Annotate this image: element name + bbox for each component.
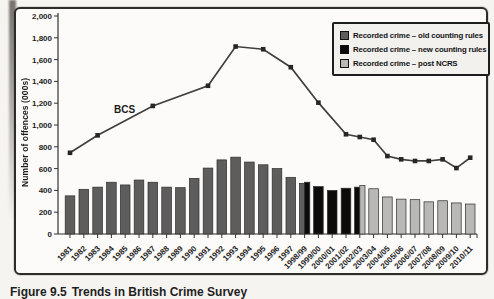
bcs-point-1987 [151, 104, 156, 109]
bar-1991-old [203, 168, 213, 234]
bar-1995-old [258, 165, 268, 234]
bar-1993-old [231, 157, 241, 234]
bar-1986-old [134, 180, 144, 234]
bar-1999/00-new [314, 187, 324, 234]
bcs-point-2005/06 [399, 157, 404, 162]
y-tick-label-2,000: 2,000 [32, 12, 53, 21]
y-tick-label-1,800: 1,800 [32, 34, 53, 43]
y-tick-label-0: 0 [48, 230, 53, 239]
bar-2009/10-post [452, 203, 462, 234]
legend-swatch-new-icon [340, 45, 349, 54]
bar-2006/07-post [410, 200, 420, 234]
legend-label-old: Recorded crime – old counting rules [353, 31, 483, 40]
y-axis-title: Number of offences (000s) [20, 37, 30, 227]
bcs-point-1995 [261, 47, 266, 52]
legend-item-old: Recorded crime – old counting rules [340, 28, 483, 42]
bcs-point-1991 [206, 83, 211, 88]
legend-item-post: Recorded crime – post NCRS [340, 56, 483, 70]
bcs-point-2003/04 [371, 137, 376, 142]
figure-caption: Figure 9.5Trends in British Crime Survey [10, 285, 490, 299]
y-tick-label-1,200: 1,200 [32, 99, 53, 108]
y-tick-label-400: 400 [39, 186, 53, 195]
bar-1985-old [120, 185, 130, 234]
bar-1996-old [272, 169, 282, 234]
bar-1998/99-new [305, 182, 310, 234]
y-tick-label-1,600: 1,600 [32, 56, 53, 65]
y-tick-label-200: 200 [39, 208, 53, 217]
legend-label-new: Recorded crime – new counting rules [353, 45, 486, 54]
y-tick-label-1,000: 1,000 [32, 121, 53, 130]
bcs-point-2009/10 [454, 166, 459, 171]
bar-2007/08-post [424, 202, 434, 234]
bar-1989-old [176, 188, 186, 234]
bar-1998/99-old [299, 183, 304, 234]
bcs-point-1997 [289, 65, 294, 70]
bcs-point-2006/07 [413, 159, 418, 164]
bcs-point-1999/00 [316, 100, 321, 105]
bcs-point-2010/11 [468, 155, 473, 160]
bar-1988-old [162, 187, 172, 234]
bar-2008/09-post [438, 201, 448, 234]
figure-frame: 2,0001,8001,6001,4001,2001,0008006004002… [14, 7, 488, 275]
legend-label-post: Recorded crime – post NCRS [353, 59, 457, 68]
bar-2002/03-post [360, 185, 365, 234]
bar-1997-old [286, 177, 296, 234]
bcs-point-1981 [68, 150, 73, 155]
y-tick-label-600: 600 [39, 165, 53, 174]
bcs-point-2002/03 [358, 135, 363, 140]
bar-2005/06-post [396, 199, 406, 234]
bar-1994-old [245, 162, 255, 234]
chart-legend: Recorded crime – old counting rules Reco… [332, 22, 490, 76]
bar-1992-old [217, 160, 227, 234]
bar-2010/11-post [465, 204, 475, 234]
legend-swatch-old-icon [340, 31, 349, 40]
bcs-point-2008/09 [440, 157, 445, 162]
bar-1983-old [93, 187, 103, 234]
bcs-annotation: BCS [114, 104, 135, 115]
bar-1984-old [107, 182, 117, 234]
bar-1982-old [79, 189, 89, 234]
y-tick-label-800: 800 [39, 143, 53, 152]
bar-2000/01-new [327, 190, 337, 234]
legend-swatch-post-icon [340, 59, 349, 68]
bcs-point-2001/02 [344, 132, 349, 137]
figure-caption-number: Figure 9.5 [10, 285, 67, 299]
y-tick-label-1,400: 1,400 [32, 77, 53, 86]
bar-2002/03-new [355, 187, 360, 234]
bcs-point-1983 [95, 133, 100, 138]
bar-2003/04-post [369, 189, 379, 234]
figure-caption-text: Trends in British Crime Survey [72, 285, 247, 299]
legend-item-new: Recorded crime – new counting rules [340, 42, 483, 56]
bcs-point-1993 [233, 44, 238, 49]
bar-2004/05-post [383, 197, 393, 234]
bar-2001/02-new [341, 188, 351, 234]
bar-1990-old [189, 178, 199, 234]
bcs-point-2007/08 [427, 159, 432, 164]
bcs-point-2004/05 [385, 154, 390, 159]
bar-1981-old [65, 196, 75, 234]
bar-1987-old [148, 182, 158, 234]
